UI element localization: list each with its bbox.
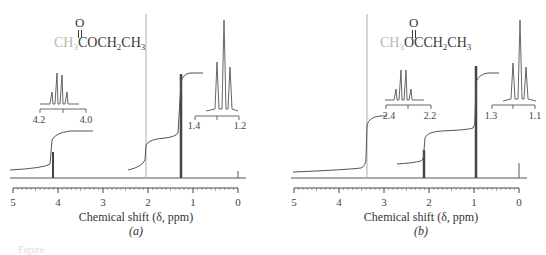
oxygen-label: O (75, 15, 84, 30)
quartet-inset-a (40, 73, 86, 113)
molecule-formula-b: CH3OCCH2CH3 (380, 36, 471, 52)
highlighted-methyl: CH3 (380, 35, 404, 50)
x-tick-label: 5 (291, 196, 297, 208)
x-tick-label: 2 (426, 196, 432, 208)
x-tick-label: 5 (10, 196, 16, 208)
panel-label: (b) (414, 224, 428, 239)
highlighted-methyl: CH3 (54, 35, 78, 50)
x-tick-label: 3 (381, 196, 387, 208)
inset-label: 1.1 (529, 110, 542, 121)
triplet-inset-a (195, 20, 239, 120)
molecule-formula-a: CH3COCH2CH3 (54, 36, 145, 52)
spectrum-panel-b: O CH3OCCH2CH3 2.4 2.2 1.3 1.1 5 4 3 2 1 … (273, 0, 546, 252)
inset-label: 1.2 (234, 120, 247, 131)
quartet-inset-b (385, 70, 431, 109)
x-axis-label: Chemical shift (δ, ppm) (79, 210, 193, 225)
panel-label: (a) (129, 224, 143, 239)
spectrum-panel-a: O CH3COCH2CH3 4.2 4.0 1.4 1.2 5 4 3 2 1 … (0, 0, 273, 252)
inset-label: 2.4 (383, 110, 396, 121)
inset-label: 4.0 (80, 114, 93, 125)
x-tick-label: 0 (235, 196, 241, 208)
inset-label: 4.2 (33, 114, 46, 125)
inset-label: 2.2 (424, 110, 437, 121)
figure-caption-fragment: Figure (18, 244, 44, 255)
inset-label: 1.3 (485, 110, 498, 121)
x-tick-label: 4 (336, 196, 342, 208)
x-tick-label: 1 (471, 196, 477, 208)
x-tick-label: 4 (55, 196, 61, 208)
inset-label: 1.4 (188, 120, 201, 131)
triplet-inset-b (492, 20, 536, 109)
x-tick-label: 0 (516, 196, 522, 208)
x-tick-label: 1 (190, 196, 196, 208)
oxygen-label: O (409, 15, 418, 30)
x-tick-label: 3 (100, 196, 106, 208)
x-axis-label: Chemical shift (δ, ppm) (364, 210, 478, 225)
x-tick-label: 2 (145, 196, 151, 208)
